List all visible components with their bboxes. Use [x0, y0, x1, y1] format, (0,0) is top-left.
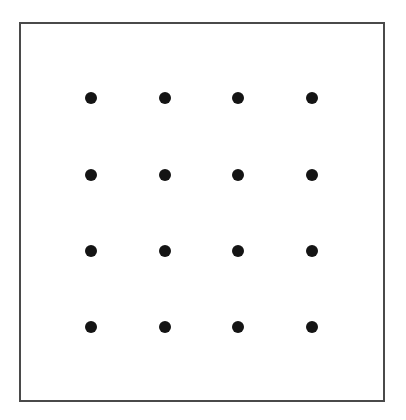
dot-marker-r4c3	[232, 321, 244, 333]
figure-ylabel	[0, 0, 1, 1]
dot-marker-r1c1	[85, 92, 97, 104]
dot-marker-r4c1	[85, 321, 97, 333]
dot-marker-r2c1	[85, 169, 97, 181]
dot-marker-r1c2	[159, 92, 171, 104]
dot-marker-r4c4	[306, 321, 318, 333]
outer-border-rectangle	[19, 22, 385, 402]
dot-marker-r1c4	[306, 92, 318, 104]
figure-canvas	[0, 0, 406, 420]
dot-marker-r3c4	[306, 245, 318, 257]
dot-marker-r3c1	[85, 245, 97, 257]
dot-marker-r2c4	[306, 169, 318, 181]
figure-title	[0, 0, 1, 1]
dot-marker-r2c3	[232, 169, 244, 181]
dot-marker-r3c2	[159, 245, 171, 257]
dot-marker-r1c3	[232, 92, 244, 104]
figure-xlabel	[0, 0, 1, 1]
dot-marker-r2c2	[159, 169, 171, 181]
figure-caption	[0, 0, 1, 1]
dot-marker-r4c2	[159, 321, 171, 333]
dot-marker-r3c3	[232, 245, 244, 257]
